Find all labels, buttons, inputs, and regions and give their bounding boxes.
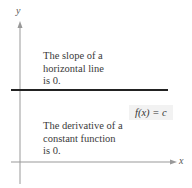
function-label: f(x) = c bbox=[129, 105, 173, 120]
annotation-line: is 0. bbox=[43, 75, 104, 88]
annotation-line: constant function bbox=[43, 133, 123, 146]
y-axis-label: y bbox=[16, 5, 20, 16]
function-label-text: f(x) = c bbox=[135, 107, 167, 118]
derivative-annotation: The derivative of a constant function is… bbox=[43, 120, 123, 158]
annotation-line: horizontal line bbox=[43, 63, 104, 76]
y-axis-arrow-icon bbox=[18, 21, 23, 28]
annotation-line: The slope of a bbox=[43, 50, 104, 63]
annotation-line: The derivative of a bbox=[43, 120, 123, 133]
x-axis-arrow-icon bbox=[170, 160, 177, 165]
annotation-line: is 0. bbox=[43, 145, 123, 158]
x-axis-label: x bbox=[179, 155, 183, 166]
slope-annotation: The slope of a horizontal line is 0. bbox=[43, 50, 104, 88]
graph-canvas bbox=[0, 0, 192, 188]
